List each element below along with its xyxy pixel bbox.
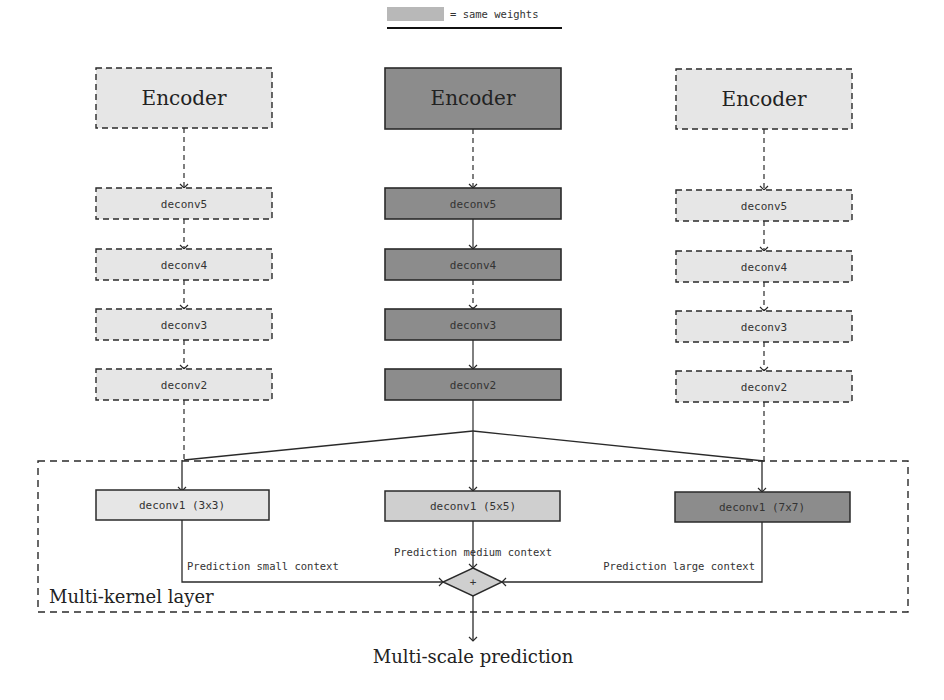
prediction-medium-label: Prediction medium context	[394, 546, 552, 558]
right-deconv5-label: deconv5	[741, 200, 787, 213]
right-deconv4-label: deconv4	[741, 261, 788, 274]
sum-plus-icon: +	[470, 576, 477, 589]
right-deconv2-label: deconv2	[741, 381, 787, 394]
middle-deconv4-label: deconv4	[450, 259, 497, 272]
middle-deconv3-label: deconv3	[450, 319, 496, 332]
right-column: Encoder deconv5 deconv4 deconv3 deconv2	[676, 69, 852, 461]
left-deconv2-label: deconv2	[161, 379, 207, 392]
prediction-small-label: Prediction small context	[187, 560, 339, 572]
architecture-diagram: = same weights Encoder deconv5 deconv4 d…	[0, 0, 944, 700]
left-deconv4-label: deconv4	[161, 259, 208, 272]
legend-swatch	[387, 7, 444, 21]
left-encoder-label: Encoder	[142, 86, 227, 110]
middle-encoder-label: Encoder	[431, 86, 516, 110]
deconv1-7x7-label: deconv1 (7x7)	[719, 501, 805, 514]
output-label: Multi-scale prediction	[373, 646, 574, 667]
legend: = same weights	[387, 7, 539, 21]
right-deconv3-label: deconv3	[741, 321, 787, 334]
left-deconv3-label: deconv3	[161, 319, 207, 332]
middle-deconv2-label: deconv2	[450, 379, 496, 392]
legend-label: = same weights	[450, 8, 539, 20]
multi-kernel-layer-title: Multi-kernel layer	[49, 586, 214, 607]
middle-column: Encoder deconv5 deconv4 deconv3 deconv2	[385, 68, 561, 431]
deconv1-5x5-label: deconv1 (5x5)	[430, 500, 516, 513]
fanout-line-right	[473, 431, 764, 461]
middle-deconv5-label: deconv5	[450, 198, 496, 211]
left-deconv5-label: deconv5	[161, 198, 207, 211]
prediction-large-label: Prediction large context	[603, 560, 755, 572]
left-column: Encoder deconv5 deconv4 deconv3 deconv2	[96, 68, 272, 461]
fanout-line-left	[184, 431, 473, 460]
right-encoder-label: Encoder	[722, 87, 807, 111]
deconv1-3x3-label: deconv1 (3x3)	[139, 499, 225, 512]
